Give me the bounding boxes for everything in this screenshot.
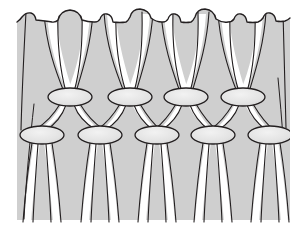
knot [221,88,265,106]
knotted-net-fabric-diagram: Knotted net fabric structure Line drawin… [0,0,307,230]
knot [48,88,92,106]
knot [135,126,179,144]
knot [78,126,122,144]
knot [20,126,64,144]
knot [191,126,235,144]
knot [164,88,208,106]
knot [248,126,292,144]
knot [108,88,152,106]
figure-root: Knotted net fabric structure Line drawin… [0,0,307,230]
